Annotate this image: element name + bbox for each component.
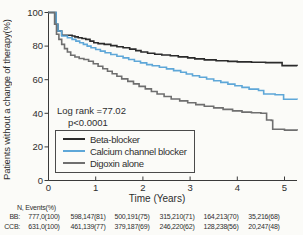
x-axis-label: Time (Years) xyxy=(87,193,227,204)
legend-label: Digoxin alone xyxy=(90,158,144,169)
legend-line-swatch xyxy=(63,138,85,140)
x-tick-label: 0 xyxy=(46,182,51,193)
y-axis-label: Patients without a change of therapy(%) xyxy=(1,5,13,195)
legend-item: Calcium channel blocker xyxy=(63,145,194,157)
x-tick-label: 1 xyxy=(93,182,98,193)
legend-label: Calcium channel blocker xyxy=(90,146,187,157)
y-tick-label: 60 xyxy=(32,74,43,85)
y-tick-label: 100 xyxy=(27,7,43,18)
x-tick-label: 5 xyxy=(282,182,287,193)
km-survival-figure: 020406080100012345 Patients without a ch… xyxy=(0,0,303,235)
legend-item: Beta-blocker xyxy=(63,133,194,145)
legend-label: Beta-blocker xyxy=(90,134,140,145)
legend-item: Digoxin alone xyxy=(63,157,194,169)
legend-line-swatch xyxy=(63,162,85,164)
legend-box: Beta-blockerCalcium channel blockerDigox… xyxy=(55,130,195,173)
y-tick-label: 0 xyxy=(38,175,43,186)
x-tick-label: 4 xyxy=(235,182,240,193)
x-tick-label: 2 xyxy=(140,182,145,193)
legend-line-swatch xyxy=(63,150,85,152)
curve-beta-blocker xyxy=(49,13,298,66)
y-tick-label: 40 xyxy=(32,108,43,119)
x-tick-label: 3 xyxy=(187,182,192,193)
y-tick-label: 20 xyxy=(32,141,43,152)
logrank-annotation: Log rank =77.02 xyxy=(57,105,126,116)
y-tick-label: 80 xyxy=(32,40,43,51)
pvalue-annotation: p<0.0001 xyxy=(68,117,108,128)
